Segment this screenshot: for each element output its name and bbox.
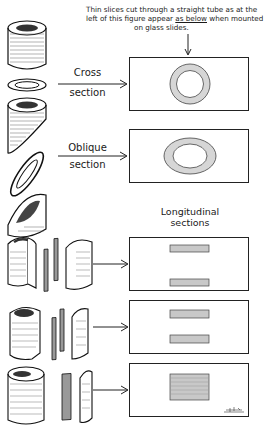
caption-line-2: left of this figure appear as below when… (86, 14, 264, 23)
strip-sections-icon (130, 238, 250, 292)
block-section-icon (130, 364, 250, 418)
oval-ring-section-icon (130, 130, 250, 184)
split-tube-icon-1 (6, 234, 98, 294)
caption-underlined: as below (175, 14, 207, 23)
split-tube-icon-2 (6, 303, 98, 363)
longitudinal-slide-3 (129, 363, 249, 417)
ring-section-icon (130, 58, 250, 112)
signature-monogram-icon (224, 407, 244, 412)
longitudinal-arrow-icon-1 (93, 259, 129, 269)
caption-line-3: on glass slides. (86, 23, 264, 32)
caption-pointer-arrow (184, 34, 194, 54)
ring-slice-icon (4, 77, 54, 97)
cross-section-label-2: section (60, 86, 115, 99)
oblique-section-label-2: section (60, 158, 115, 171)
caption-line-1: Thin slices cut through a straight tube … (86, 5, 264, 14)
longitudinal-sections-label: Longitudinal sections (140, 206, 240, 228)
oblique-cut-tube-icon (4, 97, 54, 157)
longitudinal-slide-2 (129, 300, 249, 354)
longitudinal-arrow-icon-2 (93, 322, 129, 332)
cross-section-label: Cross (60, 66, 115, 79)
longitudinal-slide-1 (129, 237, 249, 291)
straight-tube-icon (4, 20, 54, 75)
close-strip-sections-icon (130, 301, 250, 355)
oblique-section-slide (129, 129, 249, 183)
cross-section-slide (129, 57, 249, 111)
figure-caption: Thin slices cut through a straight tube … (86, 5, 264, 32)
split-tube-icon-3 (6, 364, 98, 428)
longitudinal-arrow-icon-3 (93, 385, 129, 395)
